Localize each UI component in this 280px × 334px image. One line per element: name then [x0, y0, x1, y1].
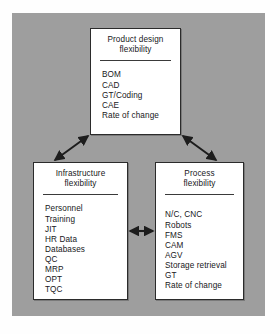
list-item: Rate of change [102, 111, 180, 121]
list-item: Databases [45, 245, 127, 255]
node-item-list-product-design: BOM CAD GT/Coding CAE Rate of change [91, 61, 180, 120]
list-item: HR Data [45, 235, 127, 245]
node-title-infrastructure: Infrastructure flexibility [34, 163, 127, 189]
list-item: FMS [165, 231, 243, 241]
list-item: Rate of change [165, 281, 243, 291]
list-item: Training [45, 215, 127, 225]
figure-canvas: Product design flexibility BOM CAD GT/Co… [0, 0, 280, 334]
list-item: MRP [45, 265, 127, 275]
node-title-process: Process flexibility [156, 163, 243, 189]
list-item: Storage retrieval [165, 261, 243, 271]
node-infrastructure-flexibility[interactable]: Infrastructure flexibility Personnel Tra… [33, 162, 128, 300]
list-item: BOM [102, 70, 180, 80]
list-item: TQC [45, 285, 127, 295]
list-item: GT [165, 271, 243, 281]
node-title-line1: Process [160, 169, 239, 179]
list-item: QC [45, 255, 127, 265]
node-item-list-infrastructure: Personnel Training JIT HR Data Databases… [34, 195, 127, 295]
node-title-line2: flexibility [38, 179, 123, 189]
node-title-line1: Product design [95, 35, 176, 45]
list-item: N/C, CNC [165, 210, 243, 220]
list-item: JIT [45, 225, 127, 235]
list-item: CAE [102, 101, 180, 111]
list-item: OPT [45, 275, 127, 285]
node-item-list-process: N/C, CNC Robots FMS CAM AGV Storage retr… [156, 195, 243, 291]
list-item: Personnel [45, 204, 127, 214]
node-process-flexibility[interactable]: Process flexibility N/C, CNC Robots FMS … [155, 162, 244, 300]
node-title-line2: flexibility [95, 45, 176, 55]
list-item: CAM [165, 241, 243, 251]
list-item: GT/Coding [102, 91, 180, 101]
list-item: Robots [165, 221, 243, 231]
node-title-line1: Infrastructure [38, 169, 123, 179]
list-item: CAD [102, 81, 180, 91]
node-title-product-design: Product design flexibility [91, 29, 180, 55]
list-item: AGV [165, 251, 243, 261]
node-product-design-flexibility[interactable]: Product design flexibility BOM CAD GT/Co… [90, 28, 181, 135]
node-title-line2: flexibility [160, 179, 239, 189]
